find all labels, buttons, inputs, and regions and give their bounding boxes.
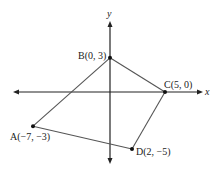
label-point-d: D(2, −5)	[136, 146, 171, 158]
quadrilateral-edges	[33, 58, 165, 149]
x-axis-left-arrow	[13, 90, 19, 95]
y-axis-top-arrow	[108, 21, 113, 27]
point-a	[31, 124, 35, 128]
x-axis-label: x	[204, 86, 210, 97]
point-c	[163, 90, 167, 94]
label-point-c: C(5, 0)	[164, 79, 192, 91]
point-b	[108, 56, 112, 60]
coordinate-diagram: x y A(−7, −3) B(0, 3) C(5, 0) D(2, −5)	[0, 0, 213, 175]
y-axis-bottom-arrow	[108, 158, 113, 164]
label-point-b: B(0, 3)	[78, 50, 106, 62]
edge-cd	[132, 92, 165, 149]
edge-bc	[110, 58, 165, 92]
vertex-points	[31, 56, 167, 151]
y-axis-label: y	[106, 8, 112, 19]
x-axis-right-arrow	[197, 90, 203, 95]
point-d	[130, 147, 134, 151]
label-point-a: A(−7, −3)	[10, 131, 50, 143]
